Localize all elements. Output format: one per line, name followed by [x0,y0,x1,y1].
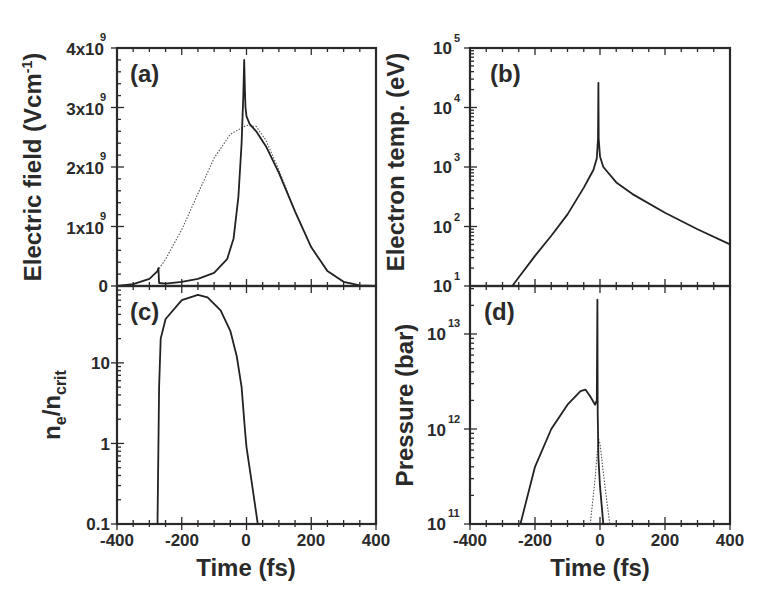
ytick-a-2e9-exp: 9 [100,150,106,162]
panel-d-xtick-labels: -400 -200 0 200 400 [453,531,744,550]
xtick-d-200: 200 [651,531,679,550]
ytick-b-1e3-exp: 3 [454,151,460,163]
xtick-d-m200: -200 [518,531,552,550]
panel-a-transmitted-field-curve [117,60,376,286]
panel-c-xtick-labels: -400 -200 0 200 400 [100,531,390,550]
ytick-b-1e5: 10 [433,39,452,58]
ytick-b-1e4-exp: 4 [454,92,461,104]
ytick-d-1e12-exp: 12 [448,413,460,425]
ytick-b-1e2-exp: 2 [454,211,460,223]
panel-b: (b) 10 5 10 4 10 3 10 2 10 1 Electron te… [382,32,730,296]
panel-d: (d) 10 13 10 12 10 11 Pressure (bar) -40… [391,286,744,581]
xtick-d-400: 400 [716,531,744,550]
panel-b-electron-temp-curve [512,83,730,286]
ytick-a-3e9: 3x10 [66,100,104,119]
xtick-c-m200: -200 [165,531,199,550]
panel-d-xlabel: Time (fs) [550,554,650,581]
panel-c-density-curve [158,295,258,524]
ytick-b-1e5-exp: 5 [454,32,460,44]
panel-a-ytick-labels: 4x10 9 3x10 9 2x10 9 1x10 9 0 [66,31,108,296]
xtick-c-400: 400 [362,531,390,550]
panel-a-label: (a) [130,60,159,87]
ytick-c-1: 1 [101,435,110,454]
ytick-a-1e9-exp: 9 [100,210,106,222]
panel-c-ylabel: ne/ncrit [38,369,69,439]
ytick-a-2e9: 2x10 [66,159,104,178]
panel-c-xlabel: Time (fs) [196,554,296,581]
xtick-d-0: 0 [595,531,604,550]
panel-c-label: (c) [130,298,159,325]
ytick-d-1e11-exp: 11 [448,507,460,519]
ytick-b-1e4: 10 [433,99,452,118]
xtick-c-0: 0 [241,531,250,550]
xtick-d-m400: -400 [453,531,487,550]
panel-d-label: (d) [484,298,515,325]
ytick-b-1e1-exp: 1 [454,270,460,282]
ytick-b-1e2: 10 [433,218,452,237]
ytick-d-1e13-exp: 13 [448,317,460,329]
panel-a-ylabel: Electric field (Vcm-1) [19,53,46,282]
panel-c: (c) 10 1 0.1 ne/ncrit -400 -200 0 200 40… [38,286,390,581]
panel-b-label: (b) [490,60,521,87]
ytick-b-1e3: 10 [433,158,452,177]
panel-b-ylabel: Electron temp. (eV) [382,53,409,272]
figure: (a) 4x10 9 3x10 9 2x10 9 1x10 9 0 Electr… [0,0,767,600]
panel-a: (a) 4x10 9 3x10 9 2x10 9 1x10 9 0 Electr… [19,31,376,296]
panel-b-ytick-labels: 10 5 10 4 10 3 10 2 10 1 [433,32,461,296]
ytick-d-1e12: 10 [427,421,446,440]
ytick-c-10: 10 [91,354,110,373]
panel-d-ytick-labels: 10 13 10 12 10 11 [427,317,460,534]
ytick-a-4e9: 4x10 [66,40,104,59]
panel-d-ylabel: Pressure (bar) [391,324,418,487]
panel-d-pressure-curve [520,300,603,524]
xtick-c-m400: -400 [100,531,134,550]
xtick-c-200: 200 [297,531,325,550]
ytick-b-1e1: 10 [433,277,452,296]
ytick-a-0: 0 [99,277,108,296]
ytick-a-1e9: 1x10 [66,219,104,238]
panel-c-ytick-labels: 10 1 0.1 [86,354,110,534]
ytick-a-3e9-exp: 9 [100,91,106,103]
ytick-d-1e13: 10 [427,325,446,344]
ytick-d-1e11: 10 [427,515,446,534]
ytick-a-4e9-exp: 9 [100,31,106,43]
